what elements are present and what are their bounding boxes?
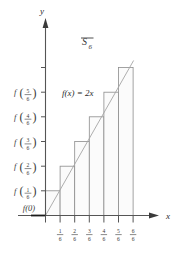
y-axis-arrowhead bbox=[43, 18, 49, 28]
x-axis-tick-label-3: 3 6 bbox=[86, 228, 92, 242]
y-axis-value-label-3: f ( 3 6 ) bbox=[14, 135, 36, 151]
x-label-6-denominator: 6 bbox=[132, 236, 135, 242]
y-label-2-numerator: 2 bbox=[27, 162, 30, 168]
y-label-1-denominator: 6 bbox=[27, 194, 30, 200]
x-axis-tick-label-6: 6 6 bbox=[130, 228, 136, 242]
bar-2 bbox=[60, 166, 75, 215]
y-label-5-denominator: 6 bbox=[27, 96, 30, 102]
y-label-5-paren-close: ) bbox=[32, 86, 36, 100]
x-axis-label: x bbox=[165, 211, 170, 221]
x-axis-ticks bbox=[46, 216, 134, 223]
x-label-6-numerator: 6 bbox=[132, 228, 135, 234]
x-label-1-denominator: 6 bbox=[59, 236, 62, 242]
x-axis-tick-label-2: 2 6 bbox=[72, 228, 78, 242]
x-axis-tick-label-4: 4 6 bbox=[101, 228, 107, 242]
y-label-3-paren-close: ) bbox=[32, 135, 36, 149]
y-label-4-paren-close: ) bbox=[32, 110, 36, 124]
function-label-text: f(x) = 2x bbox=[62, 88, 94, 98]
riemann-sum-figure: y x S 6 f(x) = 2x f(0) f ( 5 6 ) f bbox=[0, 0, 181, 253]
sum-title: S 6 bbox=[81, 36, 94, 51]
y-label-5-prefix: f bbox=[14, 87, 18, 97]
y-label-2-denominator: 6 bbox=[27, 170, 30, 176]
sum-title-subscript: 6 bbox=[89, 43, 93, 51]
x-label-2-numerator: 2 bbox=[73, 228, 76, 234]
y-label-3-paren-open: ( bbox=[20, 135, 24, 149]
x-label-1-numerator: 1 bbox=[59, 228, 62, 234]
x-label-5-numerator: 5 bbox=[117, 228, 120, 234]
function-label: f(x) = 2x bbox=[62, 88, 94, 98]
bar-4 bbox=[89, 117, 104, 216]
x-axis-arrowhead bbox=[149, 213, 159, 219]
y-label-2-paren-close: ) bbox=[32, 160, 36, 174]
origin-label: f(0) bbox=[23, 203, 35, 213]
x-label-4-numerator: 4 bbox=[103, 228, 106, 234]
y-label-1-prefix: f bbox=[14, 186, 18, 196]
y-axis-value-label-5: f ( 5 6 ) bbox=[14, 86, 36, 102]
x-label-2-denominator: 6 bbox=[73, 236, 76, 242]
y-label-5-numerator: 5 bbox=[27, 88, 30, 94]
x-label-3-numerator: 3 bbox=[88, 228, 91, 234]
y-axis-ticks bbox=[41, 68, 46, 191]
y-label-2-paren-open: ( bbox=[20, 160, 24, 174]
y-label-3-numerator: 3 bbox=[27, 137, 30, 143]
y-label-4-numerator: 4 bbox=[27, 113, 30, 119]
y-label-3-prefix: f bbox=[14, 137, 18, 147]
y-label-4-denominator: 6 bbox=[27, 120, 30, 126]
y-axis-value-label-1: f ( 1 6 ) bbox=[14, 184, 36, 200]
bar-3 bbox=[75, 142, 90, 216]
y-label-2-prefix: f bbox=[14, 161, 18, 171]
x-label-4-denominator: 6 bbox=[103, 236, 106, 242]
x-label-3-denominator: 6 bbox=[88, 236, 91, 242]
y-label-3-denominator: 6 bbox=[27, 145, 30, 151]
y-label-4-paren-open: ( bbox=[20, 110, 24, 124]
y-label-4-prefix: f bbox=[14, 112, 18, 122]
y-label-5-paren-open: ( bbox=[20, 86, 24, 100]
svg-text:f(x) = 2x: f(x) = 2x bbox=[62, 88, 94, 98]
x-axis-tick-label-1: 1 6 bbox=[57, 228, 63, 242]
bar-6 bbox=[119, 68, 134, 216]
bar-5 bbox=[104, 92, 119, 215]
figure-canvas: y x S 6 f(x) = 2x f(0) f ( 5 6 ) f bbox=[0, 0, 181, 253]
y-axis-label: y bbox=[39, 6, 44, 16]
x-axis-tick-label-5: 5 6 bbox=[115, 228, 121, 242]
y-label-1-paren-open: ( bbox=[20, 184, 24, 198]
y-axis-value-label-4: f ( 4 6 ) bbox=[14, 110, 36, 126]
y-label-1-numerator: 1 bbox=[27, 187, 30, 193]
x-label-5-denominator: 6 bbox=[117, 236, 120, 242]
y-axis-value-label-2: f ( 2 6 ) bbox=[14, 160, 36, 176]
y-label-1-paren-close: ) bbox=[32, 184, 36, 198]
